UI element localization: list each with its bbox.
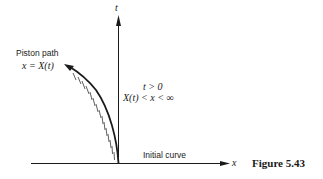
x-axis-label: x xyxy=(232,158,236,168)
piston-path-curve xyxy=(70,67,119,163)
t-axis-arrow-icon xyxy=(116,15,121,26)
region-time-condition: t > 0 xyxy=(143,82,163,92)
figure-canvas: t x Piston path x = X(t) t > 0 X(t) < x … xyxy=(0,0,323,179)
initial-curve-label: Initial curve xyxy=(143,151,186,160)
piston-path-arrow-icon xyxy=(64,64,74,71)
piston-path-title: Piston path xyxy=(16,49,59,58)
piston-path-equation: x = X(t) xyxy=(22,61,54,71)
t-axis-label: t xyxy=(115,3,118,13)
x-axis-arrow-icon xyxy=(220,161,230,166)
region-space-condition: X(t) < x < ∞ xyxy=(123,93,174,103)
figure-caption: Figure 5.43 xyxy=(252,158,305,169)
